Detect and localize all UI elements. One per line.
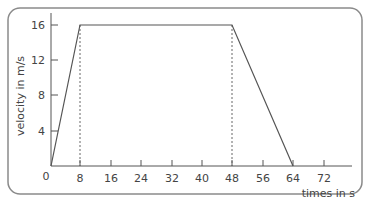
velocity-line <box>51 25 293 166</box>
x-tick-label: 40 <box>195 172 209 185</box>
y-axis-title: velocity in m/s <box>14 56 27 136</box>
x-axis-ticks <box>80 160 324 166</box>
x-tick-label: 56 <box>256 172 270 185</box>
y-tick-label: 8 <box>38 89 45 102</box>
y-tick-label: 12 <box>31 54 45 67</box>
x-tick-label: 64 <box>286 172 300 185</box>
y-tick-label: 16 <box>31 19 45 32</box>
x-tick-label: 8 <box>77 172 84 185</box>
x-tick-label: 16 <box>104 172 118 185</box>
x-tick-label: 72 <box>317 172 331 185</box>
origin-label: 0 <box>43 170 50 183</box>
x-tick-label: 32 <box>165 172 179 185</box>
y-axis-tick-labels: 4 8 12 16 <box>31 19 45 138</box>
x-axis-title: times in s <box>302 187 356 200</box>
y-tick-label: 4 <box>38 125 45 138</box>
x-axis-tick-labels: 0 8 16 24 32 40 48 56 64 72 <box>43 170 332 185</box>
x-tick-label: 24 <box>134 172 148 185</box>
velocity-time-chart: 4 8 12 16 0 8 16 24 32 40 48 56 64 72 ve… <box>0 0 370 214</box>
x-tick-label: 48 <box>225 172 239 185</box>
y-axis-ticks <box>51 25 58 131</box>
